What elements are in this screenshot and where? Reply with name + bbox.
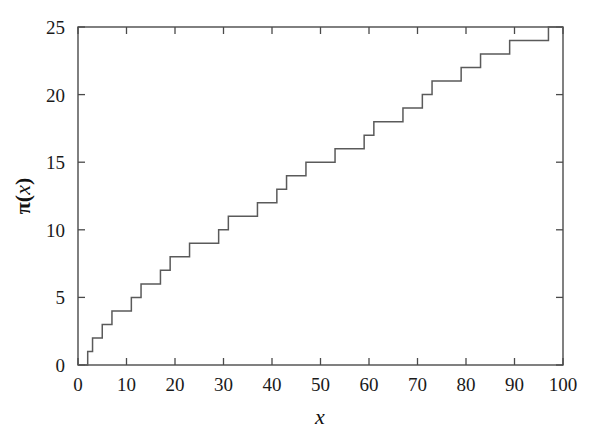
x-tick-label: 0	[73, 374, 83, 395]
prime-counting-chart: 0102030405060708090100 0510152025 x π(x)	[0, 0, 600, 446]
y-axis-variable: x	[10, 185, 35, 196]
y-tick-label: 0	[56, 355, 66, 376]
y-axis-paren-open: (	[10, 195, 35, 202]
y-tick-label: 5	[56, 287, 66, 308]
y-tick-label: 15	[46, 152, 65, 173]
y-tick-label: 20	[46, 85, 65, 106]
x-tick-label: 90	[505, 374, 524, 395]
x-tick-label: 20	[166, 374, 185, 395]
y-axis-pi-symbol: π	[10, 202, 35, 214]
y-axis-paren-close: )	[10, 178, 35, 185]
x-tick-label: 40	[263, 374, 282, 395]
x-tick-label: 50	[311, 374, 330, 395]
x-axis-title: x	[314, 404, 325, 429]
y-tick-label: 10	[46, 220, 65, 241]
x-tick-label: 80	[457, 374, 476, 395]
x-tick-label: 60	[360, 374, 379, 395]
y-axis-title-text: π(x)	[10, 178, 35, 214]
x-tick-label: 10	[117, 374, 136, 395]
x-tick-label: 30	[214, 374, 233, 395]
figure-canvas: 0102030405060708090100 0510152025 x π(x)	[0, 0, 600, 446]
x-tick-label: 100	[549, 374, 578, 395]
y-tick-label: 25	[46, 17, 65, 38]
x-tick-label: 70	[408, 374, 427, 395]
y-axis-title: π(x)	[10, 178, 35, 214]
